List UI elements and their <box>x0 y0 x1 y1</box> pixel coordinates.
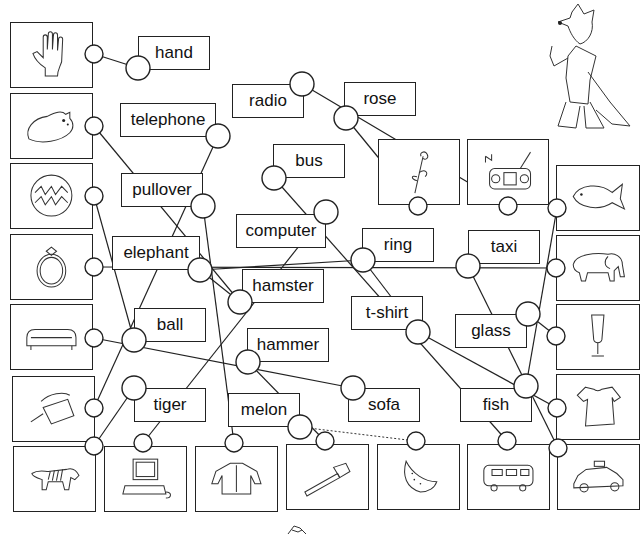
word-label: fish <box>483 395 509 415</box>
bus-icon <box>476 451 541 502</box>
small-decoration-icon <box>286 522 308 535</box>
word-label: melon <box>241 400 287 420</box>
word-box-ball: ball <box>134 308 206 342</box>
word-box-fish: fish <box>460 388 532 422</box>
taxi-icon <box>566 451 631 502</box>
word-label: telephone <box>131 110 206 130</box>
word-box-glass: glass <box>455 314 527 348</box>
word-box-ring: ring <box>362 228 434 262</box>
word-box-melon: melon <box>228 393 300 427</box>
picture-box-radio <box>467 139 549 205</box>
word-label: ring <box>384 235 412 255</box>
picture-box-hamster <box>10 93 93 159</box>
picture-box-bus <box>467 444 550 510</box>
word-label: computer <box>246 221 317 241</box>
picture-box-sofa <box>10 304 93 370</box>
fish-icon <box>565 172 631 223</box>
word-label: pullover <box>132 180 192 200</box>
picture-box-t-shirt <box>556 374 640 440</box>
matching-worksheet: hand radio rose telephone bus pullover c… <box>0 0 640 535</box>
picture-box-taxi <box>557 444 640 510</box>
word-label: taxi <box>491 237 517 257</box>
word-box-hamster: hamster <box>242 269 324 303</box>
hand-icon <box>19 29 84 80</box>
word-box-hand: hand <box>138 36 210 70</box>
ball-icon <box>19 170 84 221</box>
picture-box-melon <box>377 444 460 510</box>
picture-box-hand <box>10 22 93 88</box>
word-box-t-shirt: t-shirt <box>351 296 423 330</box>
hammer-icon <box>295 451 360 502</box>
telephone-icon <box>21 383 86 434</box>
word-box-hammer: hammer <box>247 328 329 362</box>
pullover-icon <box>204 453 269 504</box>
glass-icon <box>565 311 631 362</box>
picture-box-ring <box>10 234 93 300</box>
word-box-elephant: elephant <box>112 236 200 270</box>
word-label: hand <box>155 43 193 63</box>
word-label: sofa <box>368 395 400 415</box>
word-box-rose: rose <box>344 82 416 116</box>
word-label: ball <box>157 315 183 335</box>
word-label: hamster <box>252 276 313 296</box>
picture-box-ball <box>10 163 93 229</box>
word-box-sofa: sofa <box>348 388 420 422</box>
tiger-icon <box>22 453 87 504</box>
picture-box-tiger <box>13 446 96 512</box>
word-label: rose <box>363 89 396 109</box>
melon-icon <box>386 451 451 502</box>
word-box-pullover: pullover <box>121 173 203 207</box>
picture-box-rose <box>378 139 460 205</box>
tshirt-icon <box>565 381 631 432</box>
picture-box-telephone <box>12 376 95 442</box>
picture-box-hammer <box>286 444 369 510</box>
picture-box-glass <box>556 304 640 370</box>
rose-icon <box>387 146 451 197</box>
computer-icon <box>113 453 178 504</box>
word-label: elephant <box>123 243 188 263</box>
word-box-bus: bus <box>273 144 345 178</box>
elephant-icon <box>565 242 631 293</box>
word-label: glass <box>471 321 511 341</box>
word-label: tiger <box>153 395 186 415</box>
word-label: radio <box>249 91 287 111</box>
hamster-icon <box>19 100 84 151</box>
fox-mascot-illustration <box>540 2 640 138</box>
picture-box-elephant <box>556 235 640 301</box>
picture-box-pullover <box>195 446 278 512</box>
word-label: t-shirt <box>366 303 409 323</box>
radio-icon <box>476 146 540 197</box>
picture-box-computer <box>104 446 187 512</box>
ring-icon <box>19 241 84 292</box>
word-box-computer: computer <box>236 214 326 248</box>
picture-box-fish <box>556 165 640 231</box>
word-box-tiger: tiger <box>134 388 206 422</box>
word-label: bus <box>295 151 322 171</box>
word-box-telephone: telephone <box>120 103 216 137</box>
sofa-icon <box>19 311 84 362</box>
word-label: hammer <box>257 335 319 355</box>
word-box-taxi: taxi <box>468 230 540 264</box>
word-box-radio: radio <box>232 84 304 118</box>
